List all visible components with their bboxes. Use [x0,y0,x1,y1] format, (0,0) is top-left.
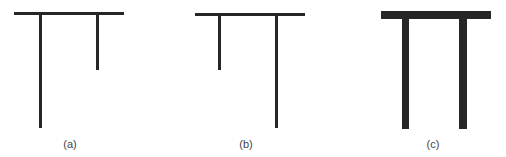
horizontal-beam [381,11,491,19]
left-leg-long [402,18,409,129]
figure-label: (c) [418,138,448,150]
figure-label: (b) [231,138,261,150]
left-leg-short [218,15,221,70]
right-leg-short [96,14,99,70]
right-leg-long [459,18,467,129]
left-leg-long [39,14,42,128]
figure-label: (a) [55,138,85,150]
horizontal-beam [195,13,305,16]
right-leg-long [275,15,278,128]
horizontal-beam [14,12,124,15]
